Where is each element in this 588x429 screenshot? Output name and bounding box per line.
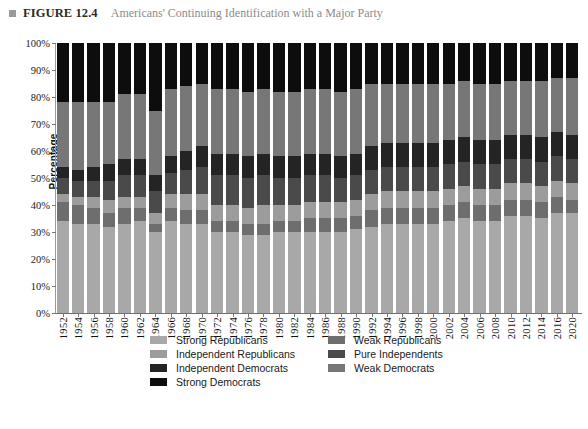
bar-1962[interactable]	[134, 43, 146, 313]
segment-pure-independents	[535, 162, 547, 186]
bar-2012[interactable]	[520, 43, 532, 313]
segment-independent-republicans	[211, 205, 223, 221]
segment-independent-democrats	[427, 143, 439, 167]
y-tick-label: 90%	[10, 65, 50, 76]
bar-2004[interactable]	[458, 43, 470, 313]
segment-weak-republicans	[57, 202, 69, 221]
segment-strong-democrats	[196, 43, 208, 84]
segment-strong-republicans	[180, 224, 192, 313]
bar-1994[interactable]	[381, 43, 393, 313]
bar-1958[interactable]	[103, 43, 115, 313]
legend-swatch-icon	[150, 364, 167, 372]
segment-weak-republicans	[396, 208, 408, 224]
legend-item-weak-republicans[interactable]: Weak Republicans	[328, 333, 441, 346]
segment-pure-independents	[304, 175, 316, 202]
bar-1956[interactable]	[87, 43, 99, 313]
legend-item-independent-republicans[interactable]: Independent Republicans	[150, 347, 295, 360]
segment-pure-independents	[520, 159, 532, 183]
bar-1952[interactable]	[57, 43, 69, 313]
bar-2010[interactable]	[504, 43, 516, 313]
segment-strong-democrats	[211, 43, 223, 89]
bar-1968[interactable]	[180, 43, 192, 313]
legend-item-strong-republicans[interactable]: Strong Republicans	[150, 333, 268, 346]
legend-item-strong-democrats[interactable]: Strong Democrats	[150, 375, 261, 388]
segment-pure-independents	[489, 164, 501, 188]
bar-1984[interactable]	[304, 43, 316, 313]
legend-label: Strong Democrats	[176, 376, 261, 388]
bar-1964[interactable]	[149, 43, 161, 313]
segment-pure-independents	[427, 167, 439, 191]
bar-2014[interactable]	[535, 43, 547, 313]
bar-1966[interactable]	[165, 43, 177, 313]
segment-strong-republicans	[226, 232, 238, 313]
bar-1976[interactable]	[242, 43, 254, 313]
segment-strong-democrats	[165, 43, 177, 89]
legend-item-weak-democrats[interactable]: Weak Democrats	[328, 361, 434, 374]
segment-strong-democrats	[443, 43, 455, 84]
bar-1954[interactable]	[72, 43, 84, 313]
segment-strong-republicans	[57, 221, 69, 313]
segment-weak-democrats	[57, 102, 69, 167]
segment-weak-republicans	[412, 208, 424, 224]
bar-1996[interactable]	[396, 43, 408, 313]
segment-strong-republicans	[504, 216, 516, 313]
segment-weak-republicans	[535, 202, 547, 218]
bar-1988[interactable]	[334, 43, 346, 313]
figure-header: FIGURE 12.4 Americans' Continuing Identi…	[0, 0, 588, 26]
bar-2006[interactable]	[473, 43, 485, 313]
segment-weak-republicans	[443, 205, 455, 221]
bar-1974[interactable]	[226, 43, 238, 313]
segment-pure-independents	[103, 181, 115, 200]
segment-strong-republicans	[520, 216, 532, 313]
y-tick-mark	[52, 232, 56, 233]
segment-strong-republicans	[427, 224, 439, 313]
segment-weak-republicans	[551, 197, 563, 213]
segment-weak-democrats	[134, 94, 146, 159]
segment-weak-democrats	[319, 89, 331, 154]
segment-strong-republicans	[535, 218, 547, 313]
bar-2020[interactable]	[566, 43, 578, 313]
bar-1982[interactable]	[288, 43, 300, 313]
segment-strong-republicans	[396, 224, 408, 313]
segment-weak-republicans	[458, 202, 470, 218]
segment-weak-democrats	[551, 78, 563, 132]
segment-pure-independents	[134, 175, 146, 197]
segment-strong-democrats	[72, 43, 84, 102]
legend-item-independent-democrats[interactable]: Independent Democrats	[150, 361, 288, 374]
segment-weak-democrats	[535, 81, 547, 138]
bar-1992[interactable]	[365, 43, 377, 313]
segment-strong-democrats	[257, 43, 269, 89]
segment-independent-democrats	[273, 156, 285, 178]
bar-1980[interactable]	[273, 43, 285, 313]
segment-independent-democrats	[196, 146, 208, 168]
segment-pure-independents	[273, 178, 285, 205]
bar-1998[interactable]	[412, 43, 424, 313]
bar-1960[interactable]	[118, 43, 130, 313]
segment-pure-independents	[149, 191, 161, 213]
segment-independent-democrats	[520, 135, 532, 159]
bar-2008[interactable]	[489, 43, 501, 313]
segment-pure-independents	[350, 175, 362, 199]
segment-strong-republicans	[103, 227, 115, 313]
segment-independent-democrats	[304, 154, 316, 176]
bar-1990[interactable]	[350, 43, 362, 313]
bar-1978[interactable]	[257, 43, 269, 313]
y-tick-mark	[52, 97, 56, 98]
segment-strong-democrats	[489, 43, 501, 84]
bar-1970[interactable]	[196, 43, 208, 313]
segment-independent-republicans	[134, 197, 146, 208]
bar-1972[interactable]	[211, 43, 223, 313]
segment-pure-independents	[118, 175, 130, 197]
bar-2002[interactable]	[443, 43, 455, 313]
legend-swatch-icon	[328, 364, 345, 372]
bar-2016[interactable]	[551, 43, 563, 313]
bar-2000[interactable]	[427, 43, 439, 313]
legend-item-pure-independents[interactable]: Pure Independents	[328, 347, 443, 360]
segment-strong-democrats	[365, 43, 377, 84]
segment-independent-democrats	[504, 135, 516, 159]
segment-independent-republicans	[427, 191, 439, 207]
segment-weak-democrats	[211, 89, 223, 154]
bar-1986[interactable]	[319, 43, 331, 313]
segment-pure-independents	[334, 178, 346, 202]
segment-independent-democrats	[551, 132, 563, 156]
